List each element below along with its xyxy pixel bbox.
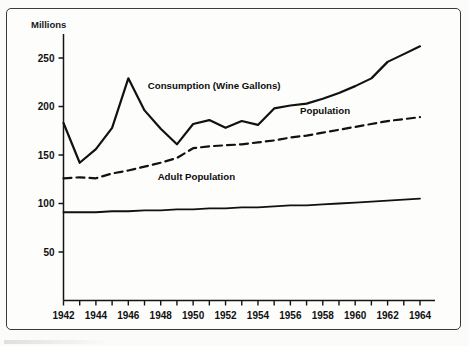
x-tick-labels: 1942194419461948195019521954195619581960… <box>52 310 431 321</box>
y-tick-label: 200 <box>38 101 55 112</box>
x-tick-label: 1958 <box>312 310 335 321</box>
y-tick-labels: 25020015010050 <box>38 53 55 258</box>
y-tick-label: 100 <box>38 198 55 209</box>
y-axis-title: Millions <box>31 19 66 30</box>
series-lines <box>64 46 421 212</box>
series-line-1 <box>64 117 421 178</box>
series-line-2 <box>64 199 421 213</box>
x-tick-label: 1956 <box>279 310 302 321</box>
line-chart: 25020015010050 1942194419461948195019521… <box>0 0 469 346</box>
y-tick-label: 150 <box>38 150 55 161</box>
y-tick-label: 50 <box>43 247 55 258</box>
series-annotation-1: Population <box>300 105 350 116</box>
tick-marks <box>59 58 421 306</box>
series-annotation-2: Adult Population <box>158 171 236 182</box>
x-tick-label: 1960 <box>344 310 367 321</box>
axes <box>64 34 436 301</box>
series-annotations: Consumption (Wine Gallons)PopulationAdul… <box>148 80 350 182</box>
x-tick-label: 1948 <box>150 310 173 321</box>
x-tick-label: 1942 <box>52 310 75 321</box>
x-tick-label: 1964 <box>409 310 432 321</box>
x-tick-label: 1962 <box>376 310 399 321</box>
x-tick-label: 1952 <box>214 310 237 321</box>
x-tick-label: 1954 <box>247 310 270 321</box>
x-tick-label: 1950 <box>182 310 205 321</box>
x-tick-label: 1944 <box>85 310 108 321</box>
y-tick-label: 250 <box>38 53 55 64</box>
x-tick-label: 1946 <box>117 310 140 321</box>
series-annotation-0: Consumption (Wine Gallons) <box>148 80 281 91</box>
